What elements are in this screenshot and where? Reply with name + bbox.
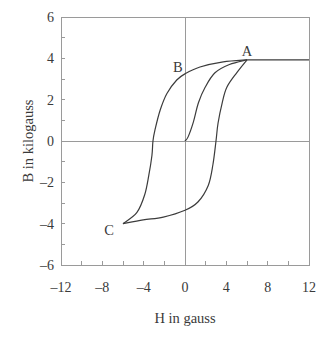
hysteresis-chart: ABC –12–8–404812 –6–4–20246 H in gauss B… <box>0 0 330 343</box>
y-tick-labels: –6–4–20246 <box>39 10 54 273</box>
y-tick-label: 2 <box>47 93 54 108</box>
x-tick-label: –8 <box>94 280 109 295</box>
y-tick-label: 4 <box>47 51 54 66</box>
y-tick-label: 0 <box>47 134 54 149</box>
point-label-b: B <box>173 59 183 75</box>
point-label-a: A <box>242 43 253 59</box>
y-tick-label: –4 <box>39 217 54 232</box>
point-labels: ABC <box>104 43 253 238</box>
curves <box>123 60 309 224</box>
y-axis-title: B in kilogauss <box>20 99 36 182</box>
y-tick-label: –2 <box>39 175 54 190</box>
x-tick-labels: –12–8–404812 <box>50 280 317 295</box>
x-tick-label: 0 <box>182 280 189 295</box>
y-tick-label: 6 <box>47 10 54 25</box>
x-tick-label: 12 <box>302 280 316 295</box>
x-tick-label: 4 <box>223 280 230 295</box>
x-tick-label: –12 <box>50 280 72 295</box>
point-label-c: C <box>104 222 114 238</box>
x-axis-title: H in gauss <box>154 310 216 326</box>
y-tick-label: –6 <box>39 258 54 273</box>
x-tick-label: 8 <box>264 280 271 295</box>
plot-area: ABC <box>61 17 309 265</box>
x-tick-label: –4 <box>136 280 151 295</box>
